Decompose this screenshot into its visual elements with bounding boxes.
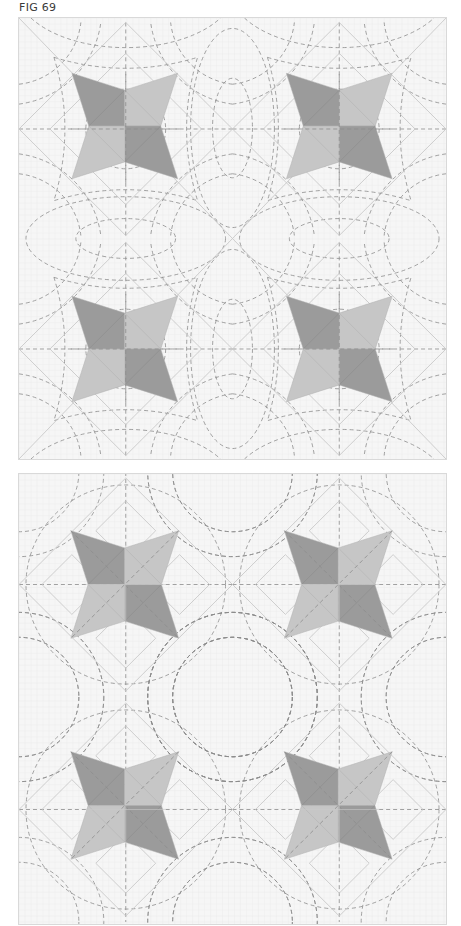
- corner-circle-quilting: [386, 474, 446, 532]
- corner-arc-quilting: [384, 174, 446, 236]
- corner-circle-quilting: [19, 612, 104, 781]
- star-block-star: [72, 73, 178, 179]
- corner-circle-quilting: [19, 612, 104, 781]
- corner-circle-quilting: [361, 612, 446, 781]
- corner-arc-quilting: [171, 394, 233, 456]
- corner-arc-quilting: [233, 174, 295, 236]
- corner-circle-quilting: [386, 637, 446, 756]
- corner-circle-quilting: [173, 474, 293, 532]
- corner-circle-quilting: [173, 474, 293, 532]
- orange-peel-quilting: [191, 28, 275, 227]
- corner-circle-quilting: [386, 637, 446, 756]
- corner-circle-quilting: [173, 862, 293, 924]
- corner-circle-quilting: [173, 637, 293, 756]
- corner-circle-quilting: [361, 612, 446, 781]
- corner-arc-quilting: [19, 174, 81, 236]
- corner-arc-quilting: [171, 22, 233, 84]
- corner-arc-quilting: [384, 242, 446, 304]
- corner-arc-quilting: [233, 22, 295, 84]
- star-point-bl: [72, 349, 125, 402]
- corner-circle-quilting: [173, 637, 293, 756]
- quilt-panel-bottom: [18, 473, 447, 925]
- quilt-panel-top: [18, 17, 447, 460]
- corner-circle-quilting: [173, 637, 293, 756]
- corner-circle-quilting: [173, 862, 293, 924]
- corner-arc-quilting: [384, 22, 446, 84]
- star-point-bl: [72, 126, 125, 179]
- corner-arc-quilting: [171, 174, 233, 236]
- corner-circle-quilting: [386, 862, 446, 924]
- quilt-diagram-straight-set: [19, 474, 446, 924]
- corner-circle-quilting: [173, 637, 293, 756]
- figure-label: FIG 69: [19, 1, 56, 14]
- corner-arc-quilting: [384, 394, 446, 456]
- quilt-diagram-on-point: [19, 18, 446, 459]
- corner-arc-quilting: [19, 22, 81, 84]
